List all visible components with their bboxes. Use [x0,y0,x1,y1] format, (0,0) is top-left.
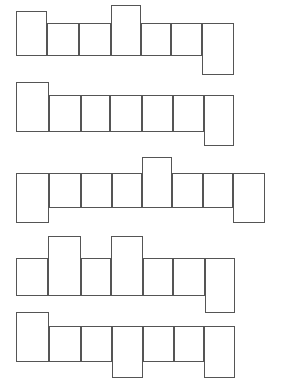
puzzle-cell[interactable] [81,326,112,362]
puzzle-cell[interactable] [112,326,143,378]
puzzle-cell[interactable] [143,326,174,362]
puzzle-cell[interactable] [49,326,81,362]
puzzle-strip [0,0,281,387]
puzzle-cell[interactable] [174,326,204,362]
puzzle-cell[interactable] [16,312,49,362]
puzzle-sheet [0,0,281,387]
puzzle-cell[interactable] [204,326,235,378]
